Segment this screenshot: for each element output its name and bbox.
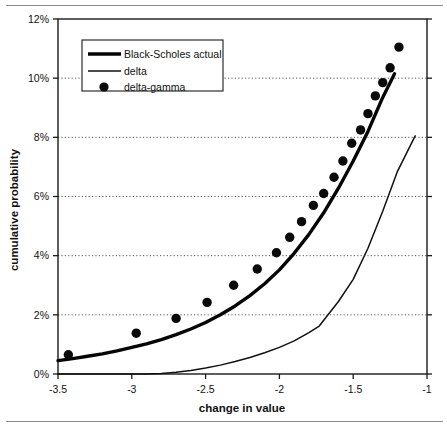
delta-gamma-point: [347, 139, 356, 148]
delta-gamma-point: [132, 328, 141, 337]
x-tick-label: -2.5: [197, 383, 215, 395]
delta-gamma-point: [356, 125, 365, 134]
y-tick-label: 4%: [34, 249, 49, 261]
delta-gamma-point: [338, 156, 347, 165]
delta-gamma-point: [64, 350, 73, 359]
chart-figure: 0%2%4%6%8%10%12% -3.5-3-2.5-2-1.5-1 Blac…: [0, 0, 447, 432]
x-axis-tick-labels: -3.5-3-2.5-2-1.5-1: [49, 383, 432, 395]
delta-gamma-point: [272, 248, 281, 257]
legend-label-black-scholes-actual: Black-Scholes actual: [124, 48, 221, 60]
delta-line: [58, 136, 415, 374]
legend-label-delta-gamma: delta-gamma: [124, 81, 185, 93]
delta-gamma-point: [329, 173, 338, 182]
y-axis-title: cumulative probability: [8, 148, 20, 271]
top-divider-rule: [6, 5, 443, 6]
x-tick-label: -3.5: [49, 383, 67, 395]
series-delta: [58, 136, 415, 374]
x-tick-label: -1: [422, 383, 431, 395]
x-tick-label: -2: [275, 383, 284, 395]
x-tick-label: -3: [127, 383, 136, 395]
legend-swatch-filled-circle: [99, 82, 108, 91]
black-scholes-actual-line: [58, 74, 395, 361]
delta-gamma-point: [378, 78, 387, 87]
delta-gamma-point: [229, 281, 238, 290]
delta-gamma-point: [319, 189, 328, 198]
y-tick-label: 0%: [34, 368, 49, 380]
delta-gamma-point: [202, 298, 211, 307]
y-tick-label: 6%: [34, 190, 49, 202]
x-axis-title: change in value: [199, 402, 285, 414]
delta-gamma-point: [394, 42, 403, 51]
delta-gamma-point: [363, 109, 372, 118]
delta-gamma-point: [385, 63, 394, 72]
delta-gamma-point: [309, 201, 318, 210]
y-tick-label: 8%: [34, 131, 49, 143]
series-black-scholes-actual: [58, 74, 395, 361]
y-axis-tick-labels: 0%2%4%6%8%10%12%: [28, 13, 49, 380]
y-tick-label: 12%: [28, 13, 49, 25]
y-tick-label: 2%: [34, 309, 49, 321]
x-tick-label: -1.5: [344, 383, 362, 395]
delta-gamma-point: [171, 314, 180, 323]
bottom-divider-rule: [6, 421, 443, 422]
cumulative-probability-chart: 0%2%4%6%8%10%12% -3.5-3-2.5-2-1.5-1 Blac…: [0, 0, 447, 432]
delta-gamma-point: [297, 217, 306, 226]
delta-gamma-point: [371, 91, 380, 100]
legend-label-delta: delta: [124, 65, 147, 77]
legend: Black-Scholes actual delta delta-gamma: [82, 40, 223, 93]
delta-gamma-point: [253, 264, 262, 273]
delta-gamma-point: [285, 233, 294, 242]
y-tick-label: 10%: [28, 72, 49, 84]
